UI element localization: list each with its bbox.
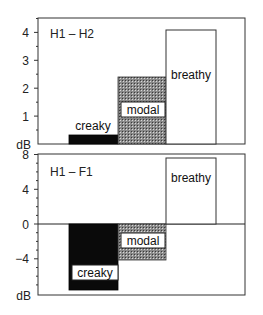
label-breathy: breathy xyxy=(171,171,211,185)
y-tick-label: 4 xyxy=(22,183,29,197)
y-tick-label: 2 xyxy=(22,82,29,96)
label-creaky: creaky xyxy=(77,266,112,280)
panel-title: H1 – F1 xyxy=(50,165,93,179)
y-tick-label: −4 xyxy=(15,252,29,266)
phonation-chart: 1 2 3 4 dB H1 – H2 creaky modal breathy xyxy=(0,0,263,315)
panel-h1-h2: 1 2 3 4 dB H1 – H2 creaky modal breathy xyxy=(16,18,245,152)
y-unit-label: dB xyxy=(16,289,31,303)
label-modal: modal xyxy=(127,234,160,248)
y-axis-ticks xyxy=(34,19,38,131)
panel-title: H1 – H2 xyxy=(50,27,94,41)
label-creaky: creaky xyxy=(75,119,110,133)
bar-breathy xyxy=(166,30,216,144)
label-modal: modal xyxy=(127,103,160,117)
label-breathy: breathy xyxy=(171,68,211,82)
y-tick-label: 3 xyxy=(22,54,29,68)
y-tick-label: 8 xyxy=(22,148,29,162)
y-tick-label: 1 xyxy=(22,110,29,124)
bar-breathy xyxy=(166,158,216,224)
panel-h1-f1: −4 0 4 8 dB H1 – F1 modal creaky breathy xyxy=(15,148,245,303)
bar-creaky xyxy=(69,135,118,144)
y-axis-ticks xyxy=(34,155,38,285)
y-tick-label: 0 xyxy=(22,218,29,232)
y-tick-label: 4 xyxy=(22,26,29,40)
